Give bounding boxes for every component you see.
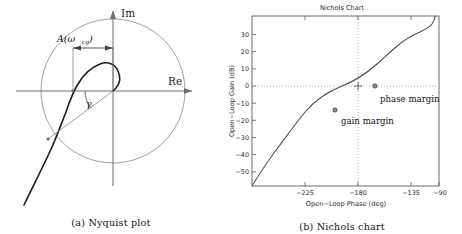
y-axis-tick-labels: 30 20 10 0 −10 −20 −30 −40 −50 [236,31,250,176]
gain-margin-marker [333,108,337,112]
x-tick-label: −180 [349,189,367,197]
nyquist-svg: Im Re A(ω cg ) γ [0,0,222,210]
y-axis-ticks [252,35,256,172]
nyquist-caption: (a) Nyquist plot [0,217,222,228]
x-tick-label: −135 [402,189,420,197]
imag-axis-arrow [110,10,116,19]
y-tick-label: −40 [236,151,250,159]
y-axis-label: Open−Loop Gain (dB) [228,65,236,137]
figure-root: Im Re A(ω cg ) γ (a) Nyquist plot Nichol… [0,0,462,234]
real-axis-arrow [184,88,192,94]
y-tick-label: 20 [241,48,249,56]
chart-title: Nichols Chart [320,4,365,12]
phase-margin-annotation: phase margin [380,94,440,104]
x-tick-label: −225 [296,189,314,197]
nichols-caption: (b) Nichols chart [222,221,462,232]
real-axis-label: Re [168,75,182,87]
gain-crossover-point [46,137,49,140]
amplitude-arrow-right [105,46,113,51]
gain-crossover-radial-line [48,91,113,139]
imag-axis-label: Im [121,7,135,19]
x-tick-label: −90 [433,189,447,197]
y-tick-label: −20 [236,117,250,125]
phase-margin-angle-label: γ [86,98,92,109]
amplitude-arrow-left [73,46,81,51]
x-axis-tick-labels: −225 −180 −135 −90 [296,189,447,197]
y-tick-label: 10 [241,65,249,73]
y-tick-label: −50 [236,168,250,176]
nichols-svg: Nichols Chart 30 20 10 [222,0,462,216]
amplitude-label-group: A(ω cg ) [56,33,93,46]
critical-point-marker [354,82,362,90]
nyquist-plot-panel: Im Re A(ω cg ) γ (a) Nyquist plot [0,0,222,234]
y-tick-label: −30 [236,134,250,142]
y-tick-label: 30 [241,31,249,39]
y-tick-label: −10 [236,100,250,108]
y-tick-label: 0 [245,82,249,90]
amplitude-label: A(ω [56,33,75,44]
nichols-chart-panel: Nichols Chart 30 20 10 [222,0,462,234]
x-axis-label: Open−Loop Phase (deg) [306,200,386,208]
amplitude-label-close: ) [88,33,93,44]
nyquist-locus-curve [24,63,120,205]
phase-margin-marker [373,84,377,88]
gain-margin-annotation: gain margin [341,116,394,126]
